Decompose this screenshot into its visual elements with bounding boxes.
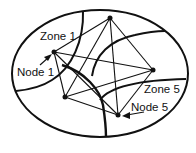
arrowhead-icon (122, 112, 130, 119)
node-1-dot (52, 50, 57, 55)
zone-1-boundary (16, 11, 83, 91)
node-1-label: Node 1 (17, 66, 54, 78)
node-5-dot (116, 113, 121, 118)
node-bottom-left-dot (63, 95, 68, 100)
node-1-arrow (40, 54, 52, 65)
vertical-zone-boundary (62, 65, 106, 137)
node-5-arrow (122, 112, 144, 119)
edge (110, 18, 118, 115)
edge (110, 18, 153, 70)
node-right-dot (151, 68, 156, 73)
edge (65, 97, 118, 115)
zone-5-label: Zone 5 (144, 83, 180, 95)
node-top-dot (108, 16, 113, 21)
edge (54, 52, 65, 97)
zone-network-diagram: Zone 1 Node 1 Zone 5 Node 5 (0, 0, 196, 153)
node-5-label: Node 5 (131, 101, 168, 113)
zone-1-label: Zone 1 (40, 30, 76, 42)
